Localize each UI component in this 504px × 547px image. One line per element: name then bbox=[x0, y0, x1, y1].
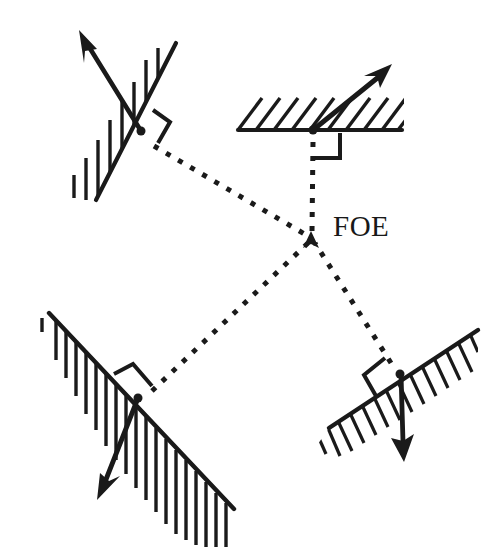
foe-ray-bottom-left bbox=[152, 243, 308, 391]
foe-label: FOE bbox=[333, 212, 389, 241]
right-angle-marker-bottom-left bbox=[114, 364, 152, 386]
foe-ray-bottom-right bbox=[315, 243, 391, 363]
patch-bottom-left bbox=[42, 313, 234, 547]
right-angle-marker-bottom-right bbox=[364, 358, 385, 396]
patch-bottom-right bbox=[318, 330, 478, 462]
hatching-bottom-right bbox=[318, 334, 478, 456]
contact-point-bottom-left bbox=[134, 394, 143, 403]
foe-ray-top-right bbox=[312, 142, 313, 232]
contact-point-bottom-right bbox=[396, 370, 405, 379]
right-angle-marker-top-left bbox=[153, 110, 170, 143]
diagram-canvas: FOE bbox=[0, 0, 504, 547]
velocity-arrow-shaft-bottom-right bbox=[401, 374, 403, 442]
right-angle-marker-top-right bbox=[313, 133, 340, 158]
foe-rays bbox=[152, 142, 391, 391]
patch-top-left bbox=[74, 30, 176, 210]
contact-point-top-left bbox=[137, 127, 146, 136]
foe-point-marker bbox=[303, 231, 319, 248]
hatching-top-right bbox=[238, 98, 418, 130]
contact-point-top-right bbox=[309, 126, 318, 135]
foe-diagram-svg bbox=[0, 0, 504, 547]
hatching-top-left bbox=[74, 48, 170, 210]
hatching-bottom-left bbox=[42, 318, 226, 547]
patch-top-right bbox=[238, 64, 418, 158]
foe-ray-top-left bbox=[154, 146, 308, 236]
velocity-arrow-shaft-bottom-left bbox=[105, 398, 138, 482]
